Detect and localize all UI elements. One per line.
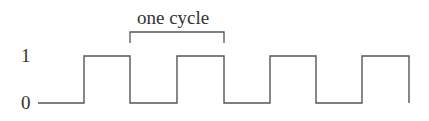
label-high: 1 <box>21 45 31 66</box>
cycle-bracket <box>130 32 224 43</box>
label-low: 0 <box>21 92 31 113</box>
square-wave-diagram: one cycle 1 0 <box>0 0 429 121</box>
square-wave <box>38 56 409 103</box>
cycle-label: one cycle <box>137 7 209 28</box>
